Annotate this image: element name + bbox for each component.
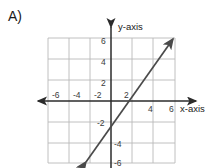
y-tick-label--2: -2: [97, 118, 105, 128]
x-tick-label--6: -6: [52, 90, 60, 100]
y-tick-label-6: 6: [101, 36, 106, 46]
y-tick-label--6: -6: [114, 158, 122, 168]
y-tick-label-4: 4: [101, 57, 106, 67]
y-tick-label-2: 2: [101, 78, 106, 88]
x-axis-label: x-axis: [180, 103, 205, 114]
x-tick-label-2: 2: [124, 90, 129, 100]
x-tick-label-6: 6: [169, 104, 174, 114]
x-tick-label-4: 4: [148, 104, 153, 114]
coordinate-plane-chart: -6 -4 -2 2 4 6 6 4 2 -2 -4 -6 y-axis x-a…: [0, 0, 218, 168]
y-axis-label: y-axis: [118, 21, 143, 32]
graph-figure: A): [0, 0, 218, 168]
x-tick-label--4: -4: [73, 90, 81, 100]
y-tick-label--4: -4: [114, 139, 122, 149]
x-tick-label--2: -2: [94, 90, 102, 100]
